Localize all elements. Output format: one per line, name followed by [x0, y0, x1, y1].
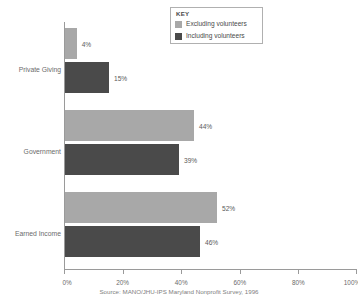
bar-earned-income-excluding[interactable]: 52% [65, 192, 217, 223]
bar-private-giving-excluding[interactable]: 4% [65, 28, 77, 59]
x-tick-label-100: 100% [344, 279, 358, 286]
category-label-government: Government [2, 148, 64, 155]
bar-group-private-giving: 4% 15% [64, 28, 357, 98]
bar-value-government-including: 39% [179, 156, 197, 163]
x-tick-label-60: 60% [233, 279, 246, 286]
x-tick-label-80: 80% [292, 279, 305, 286]
category-axis-labels: Private Giving Government Earned Income [0, 22, 64, 270]
x-tick-80 [298, 269, 299, 274]
x-tick-label-40: 40% [175, 279, 188, 286]
x-tick-40 [181, 269, 182, 274]
bar-value-government-excluding: 44% [194, 122, 212, 129]
x-axis-line [64, 269, 357, 270]
x-tick-100 [356, 269, 357, 274]
bar-value-private-giving-excluding: 4% [77, 40, 92, 47]
chart-container: including and excluding volunteer input,… [0, 0, 358, 302]
x-tick-label-20: 20% [116, 279, 129, 286]
bar-government-including[interactable]: 39% [65, 144, 179, 175]
bar-private-giving-including[interactable]: 15% [65, 62, 109, 93]
legend-heading: KEY [176, 10, 258, 17]
x-tick-label-0: 0% [62, 279, 71, 286]
x-tick-60 [240, 269, 241, 274]
bar-value-earned-income-excluding: 52% [217, 204, 235, 211]
category-label-earned-income: Earned Income [2, 230, 64, 237]
x-tick-20 [123, 269, 124, 274]
category-label-private-giving: Private Giving [2, 66, 64, 73]
bar-group-earned-income: 52% 46% [64, 192, 357, 262]
bar-earned-income-including[interactable]: 46% [65, 226, 200, 257]
bar-government-excluding[interactable]: 44% [65, 110, 194, 141]
plot-area: 0% 20% 40% 60% 80% 100% 4% 15% 44% 39% [64, 22, 357, 270]
x-tick-0 [64, 269, 65, 274]
source-note: Source: MANO/JHU-IPS Maryland Nonprofit … [0, 288, 358, 295]
bar-value-earned-income-including: 46% [200, 238, 218, 245]
bar-value-private-giving-including: 15% [109, 74, 127, 81]
bar-group-government: 44% 39% [64, 110, 357, 180]
